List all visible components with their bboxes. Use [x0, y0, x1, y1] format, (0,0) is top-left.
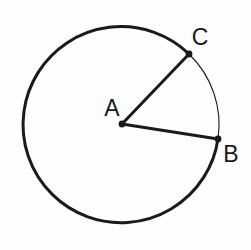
point-dot-c — [186, 51, 193, 58]
geometry-figure: A C B — [0, 0, 251, 250]
point-dot-b — [215, 136, 222, 143]
point-dot-a — [119, 121, 126, 128]
vertex-label-a: A — [104, 95, 120, 121]
vertex-label-b: B — [223, 141, 238, 167]
vertex-label-c: C — [192, 24, 209, 50]
circle-diagram-canvas: A C B — [0, 0, 251, 250]
